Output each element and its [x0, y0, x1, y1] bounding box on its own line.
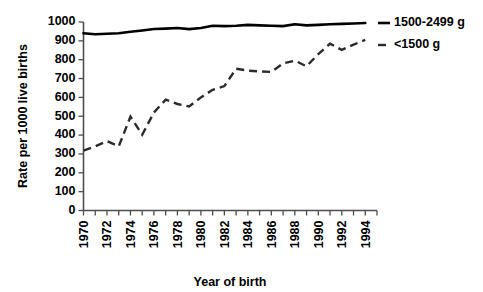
y-axis-title: Rate per 1000 live births	[16, 44, 30, 188]
x-tick-label: 1980	[194, 220, 208, 248]
x-tick-label: 1986	[265, 220, 279, 248]
y-tick-label: 300	[55, 146, 76, 160]
legend-label-under-1500g: <1500 g	[394, 37, 440, 51]
x-axis-tick-labels: 1970197219741976197819801982198419861988…	[77, 220, 373, 248]
legend-label-1500-2499g: 1500-2499 g	[394, 15, 465, 29]
series-line-under-1500g	[84, 40, 366, 151]
x-tick-label: 1978	[171, 220, 185, 248]
x-tick-label: 1984	[241, 220, 255, 248]
y-tick-label: 800	[55, 52, 76, 66]
x-tick-label: 1990	[312, 220, 326, 248]
y-tick-label: 700	[55, 71, 76, 85]
y-tick-label: 0	[69, 203, 76, 217]
y-tick-label: 400	[55, 127, 76, 141]
y-tick-label: 200	[55, 165, 76, 179]
y-axis-tick-labels: 01002003004005006007008009001000	[48, 14, 76, 217]
x-tick-label: 1972	[100, 220, 114, 248]
chart-figure: Rate per 1000 live births Year of birth …	[0, 0, 483, 292]
x-tick-label: 1988	[288, 220, 302, 248]
x-tick-label: 1994	[359, 220, 373, 248]
x-axis-title: Year of birth	[194, 275, 267, 289]
chart-legend: 1500-2499 g <1500 g	[378, 15, 465, 51]
x-tick-label: 1976	[147, 220, 161, 248]
y-tick-label: 600	[55, 90, 76, 104]
x-tick-label: 1982	[218, 220, 232, 248]
x-tick-label: 1992	[335, 220, 349, 248]
x-tick-label: 1974	[124, 220, 138, 248]
y-tick-label: 100	[55, 184, 76, 198]
y-tick-label: 900	[55, 33, 76, 47]
series-line-1500-2499g	[84, 23, 366, 34]
y-tick-label: 1000	[48, 14, 76, 28]
y-tick-label: 500	[55, 109, 76, 123]
line-chart: Rate per 1000 live births Year of birth …	[0, 0, 483, 292]
x-tick-label: 1970	[77, 220, 91, 248]
